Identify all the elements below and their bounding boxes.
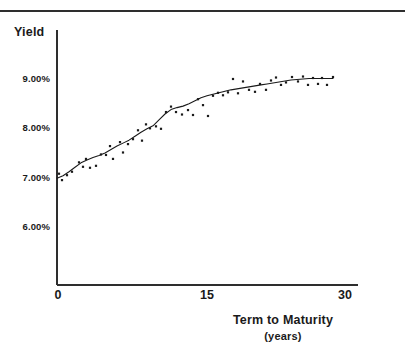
scatter-point xyxy=(82,166,84,168)
scatter-point xyxy=(122,151,124,153)
scatter-point xyxy=(222,94,224,96)
yield-curve-figure: Yield 9.00% 8.00% 7.00% 6.00% 0 15 30 Te… xyxy=(0,0,405,355)
scatter-point xyxy=(165,111,167,113)
scatter-point xyxy=(141,140,143,142)
scatter-point xyxy=(66,174,68,176)
scatter-point xyxy=(58,173,60,175)
scatter-point xyxy=(95,165,97,167)
x-tick-label: 0 xyxy=(55,288,62,302)
scatter-point xyxy=(119,141,121,143)
scatter-point xyxy=(321,77,323,79)
scatter-point xyxy=(202,104,204,106)
scatter-point xyxy=(302,75,304,77)
scatter-point xyxy=(207,115,209,117)
x-axis-units-label: (years) xyxy=(264,330,301,342)
scatter-point xyxy=(61,179,63,181)
scatter-point xyxy=(105,154,107,156)
scatter-point xyxy=(212,95,214,97)
scatter-point xyxy=(149,127,151,129)
y-tick-label: 9.00% xyxy=(23,73,50,84)
scatter-point xyxy=(248,89,250,91)
scatter-point xyxy=(291,76,293,78)
y-tick-label: 7.00% xyxy=(23,172,50,183)
scatter-point xyxy=(160,128,162,130)
scatter-point xyxy=(85,158,87,160)
scatter-point xyxy=(265,89,267,91)
scatter-point xyxy=(259,83,261,85)
scatter-point xyxy=(187,109,189,111)
x-tick-label: 15 xyxy=(200,288,214,302)
scatter-point xyxy=(127,143,129,145)
scatter-point xyxy=(312,77,314,79)
scatter-point xyxy=(71,171,73,173)
scatter-point xyxy=(78,161,80,163)
scatter-point xyxy=(192,114,194,116)
x-tick-label: 30 xyxy=(338,288,352,302)
y-tick-label: 6.00% xyxy=(23,221,50,232)
scatter-point xyxy=(275,76,277,78)
scatter-point xyxy=(145,123,147,125)
scatter-point xyxy=(137,129,139,131)
scatter-point xyxy=(89,167,91,169)
scatter-point xyxy=(242,80,244,82)
scatter-point xyxy=(297,80,299,82)
scatter-point xyxy=(317,83,319,85)
y-tick-label: 8.00% xyxy=(23,122,50,133)
scatter-point xyxy=(307,84,309,86)
scatter-point xyxy=(109,145,111,147)
scatter-point xyxy=(332,76,334,78)
scatter-point xyxy=(197,98,199,100)
scatter-point xyxy=(175,111,177,113)
scatter-point xyxy=(170,106,172,108)
scatter-point xyxy=(100,153,102,155)
scatter-point xyxy=(326,84,328,86)
scatter-point xyxy=(112,158,114,160)
scatter-point xyxy=(227,91,229,93)
scatter-point xyxy=(217,92,219,94)
scatter-points-group xyxy=(58,75,334,181)
scatter-point xyxy=(280,84,282,86)
scatter-point xyxy=(132,138,134,140)
scatter-point xyxy=(237,92,239,94)
scatter-point xyxy=(181,113,183,115)
scatter-point xyxy=(254,91,256,93)
fitted-curve-line xyxy=(57,78,333,178)
axis-spines xyxy=(57,30,358,285)
scatter-point xyxy=(155,125,157,127)
scatter-point xyxy=(270,79,272,81)
scatter-point xyxy=(232,78,234,80)
x-axis-title: Term to Maturity xyxy=(233,313,333,327)
scatter-point xyxy=(285,81,287,83)
